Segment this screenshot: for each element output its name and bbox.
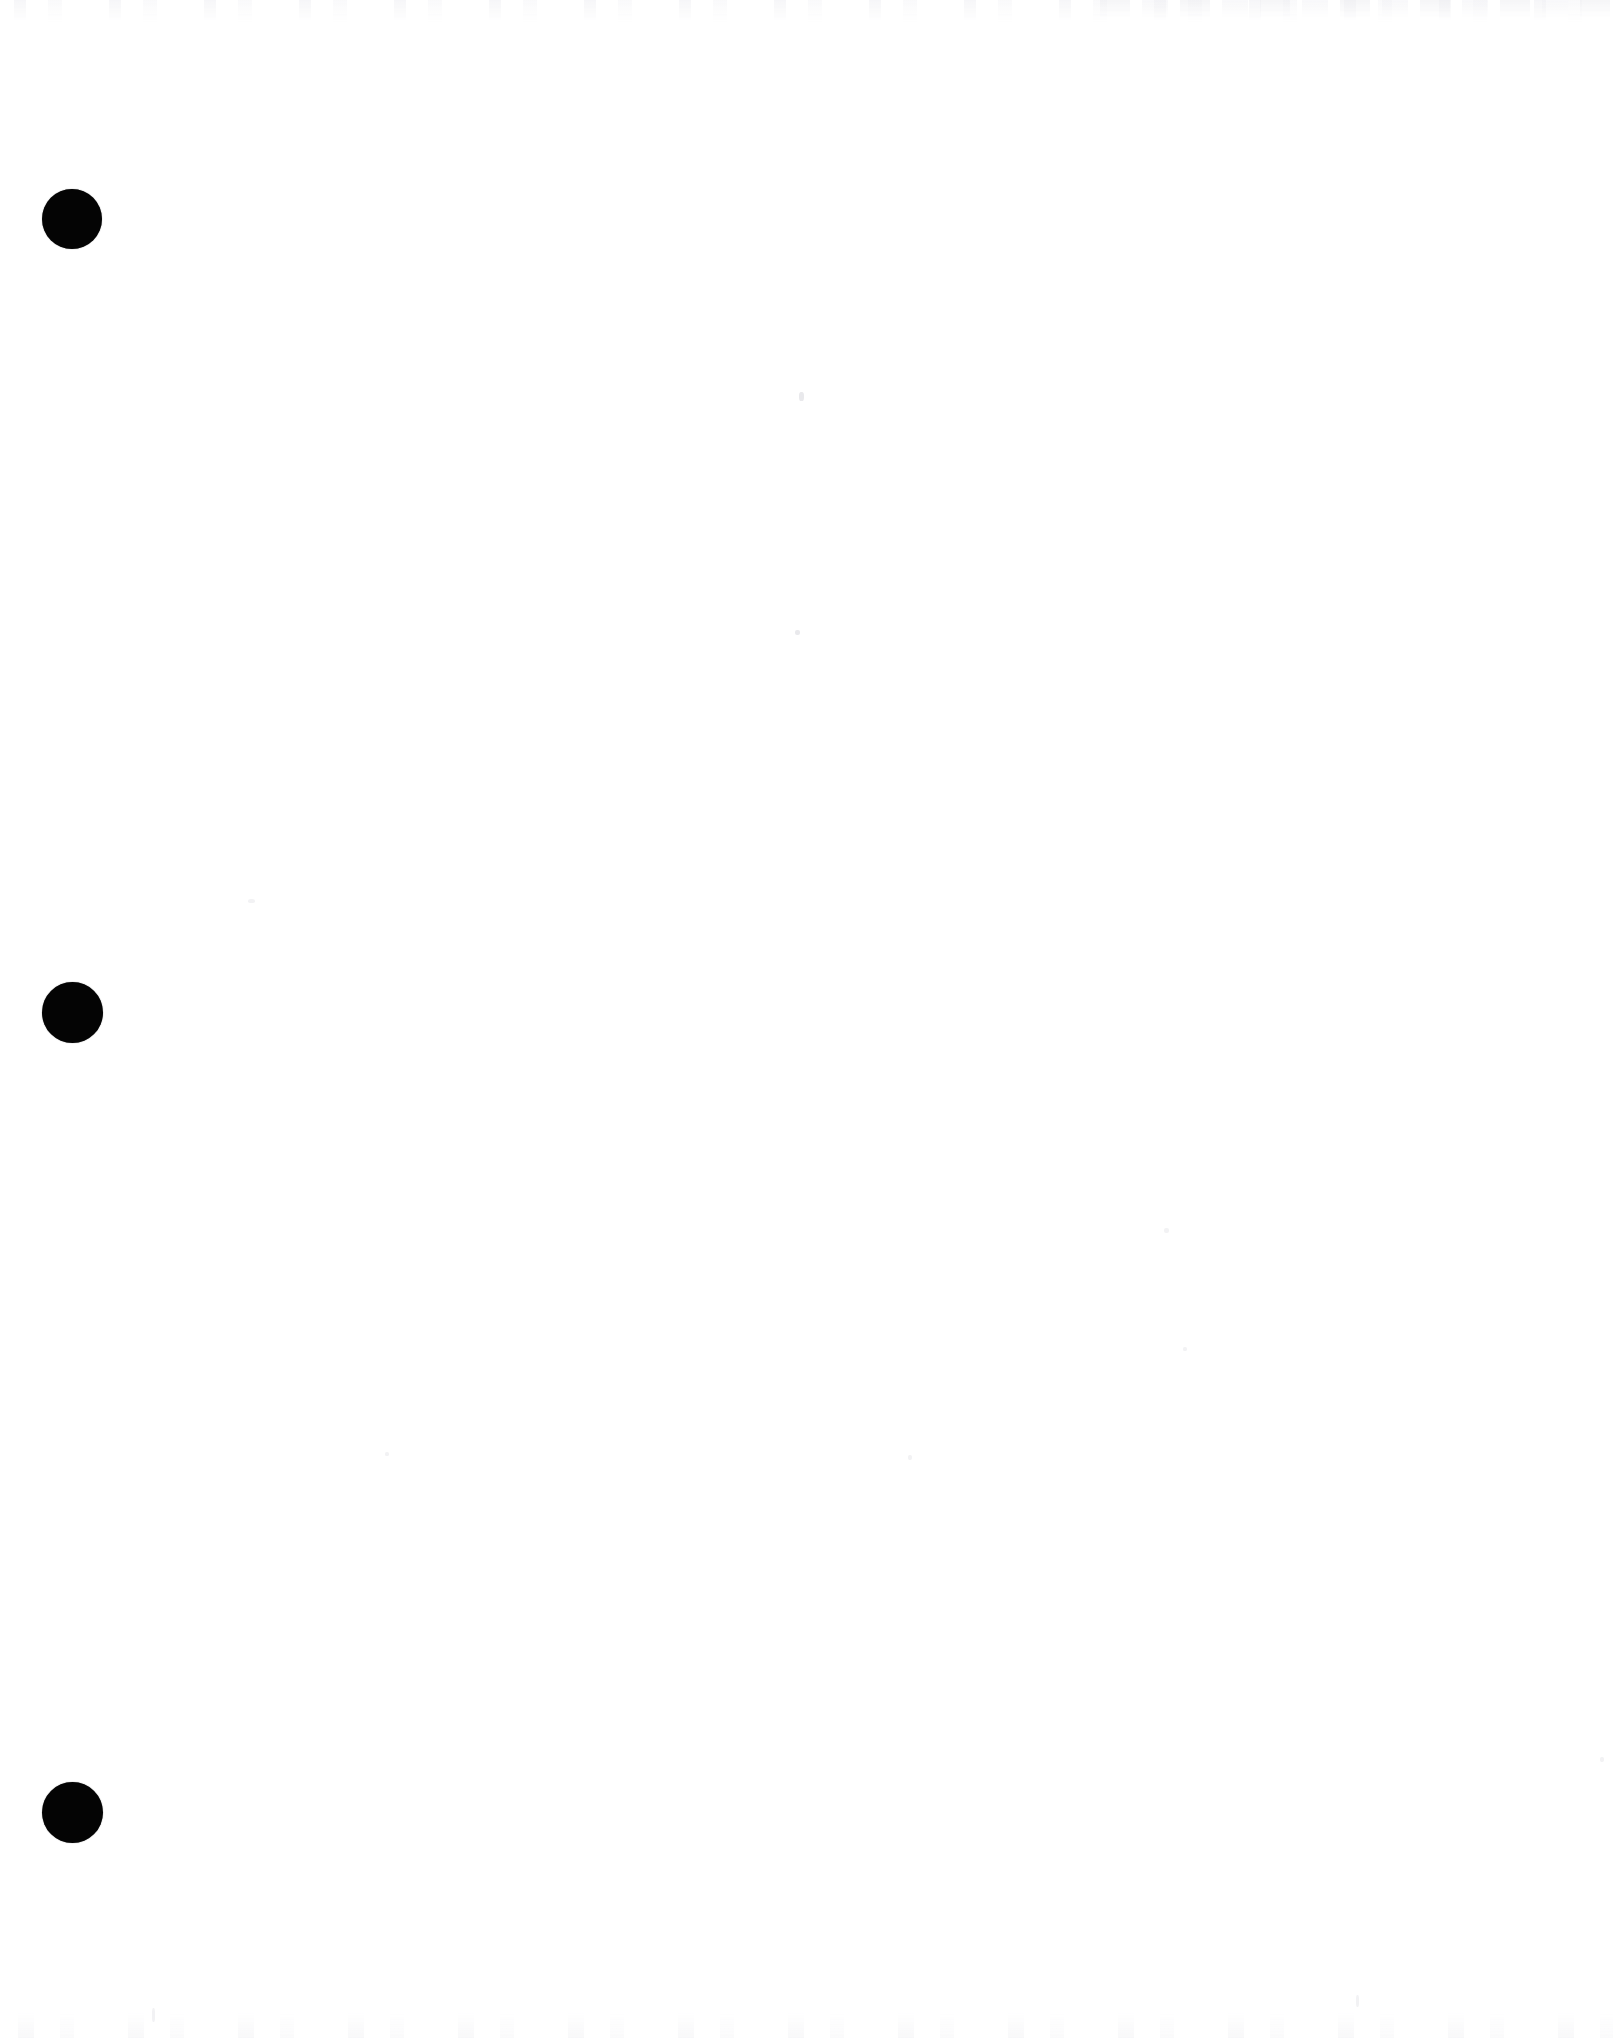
scan-ghost-band-top-right	[1100, 0, 1613, 18]
scan-speck	[1356, 1995, 1359, 2007]
scan-ghost-band-bottom	[0, 2012, 1613, 2038]
scan-speck	[1183, 1347, 1187, 1351]
scan-speck	[1600, 1757, 1604, 1762]
hole-punch-mark-2	[42, 982, 103, 1043]
scan-speck	[799, 392, 804, 401]
page-body-text	[0, 0, 1, 1]
scan-speck	[385, 1452, 389, 1456]
paper-surface	[0, 0, 1613, 2038]
hole-punch-mark-3	[42, 1782, 103, 1843]
scan-speck	[248, 899, 255, 903]
scanned-page	[0, 0, 1613, 2038]
scan-speck	[1164, 1228, 1169, 1233]
scan-speck	[795, 630, 800, 635]
hole-punch-mark-1	[42, 189, 102, 249]
scan-speck	[908, 1455, 912, 1460]
scan-ghost-band-top	[0, 0, 1613, 22]
scan-speck	[152, 2008, 155, 2022]
